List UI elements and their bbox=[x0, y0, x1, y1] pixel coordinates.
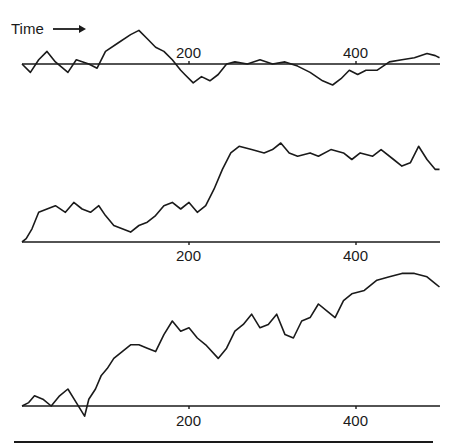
panel-3-series-line bbox=[22, 273, 440, 416]
panel-1-tick-label-400: 400 bbox=[343, 44, 368, 61]
panel-2: 200 400 bbox=[22, 143, 440, 264]
panel-3-tick-label-200: 200 bbox=[176, 412, 201, 429]
time-arrow-icon bbox=[53, 25, 86, 33]
time-label: Time bbox=[11, 20, 44, 37]
panel-3-tick-label-400: 400 bbox=[343, 412, 368, 429]
panel-1: Time 200 400 bbox=[11, 20, 440, 85]
panel-2-tick-label-200: 200 bbox=[176, 247, 201, 264]
panel-2-tick-label-400: 400 bbox=[343, 247, 368, 264]
random-walk-chart: Time 200 400 200 400 200 400 bbox=[0, 0, 453, 446]
panel-3: 200 400 bbox=[22, 273, 440, 429]
panel-1-series-line bbox=[22, 30, 440, 85]
panel-2-series-line bbox=[22, 143, 440, 242]
panel-1-tick-label-200: 200 bbox=[176, 44, 201, 61]
